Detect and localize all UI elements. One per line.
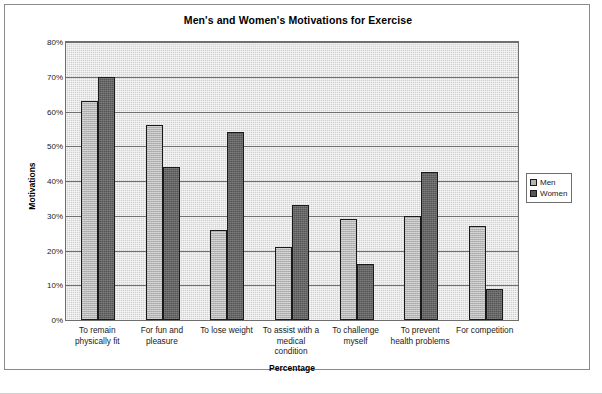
x-axis-category-label: To lose weight bbox=[190, 325, 262, 336]
x-axis-category-line: pleasure bbox=[126, 336, 198, 347]
x-axis-category-label: To assist with amedicalcondition bbox=[255, 325, 327, 357]
chart-legend: MenWomen bbox=[526, 173, 572, 203]
gridline bbox=[66, 146, 518, 147]
gridline bbox=[66, 77, 518, 78]
bar-women bbox=[98, 77, 115, 320]
x-axis-category-line: For fun and bbox=[126, 325, 198, 336]
gridline bbox=[66, 181, 518, 182]
x-axis-category-label: For competition bbox=[449, 325, 521, 336]
bar-men bbox=[81, 101, 98, 320]
bar-men bbox=[340, 219, 357, 320]
x-axis-category-line: To prevent bbox=[384, 325, 456, 336]
y-axis-tick-label: 70% bbox=[23, 72, 63, 81]
legend-item-women: Women bbox=[530, 188, 567, 199]
bar-men bbox=[404, 216, 421, 320]
x-axis-category-line: physically fit bbox=[61, 336, 133, 347]
bar-women bbox=[486, 289, 503, 320]
gridline bbox=[66, 42, 518, 43]
x-axis-category-line: For competition bbox=[449, 325, 521, 336]
y-axis-ticks: 80%70%60%50%40%30%20%10%0% bbox=[19, 41, 63, 321]
x-axis-category-label: To preventhealth problems bbox=[384, 325, 456, 346]
y-axis-label: Motivations bbox=[27, 131, 37, 241]
y-axis-tick-label: 10% bbox=[23, 281, 63, 290]
x-axis-category-line: To lose weight bbox=[190, 325, 262, 336]
x-axis-category-line: myself bbox=[320, 336, 392, 347]
plot-area bbox=[65, 41, 519, 321]
x-axis-category-label: For fun andpleasure bbox=[126, 325, 198, 346]
x-axis-category-line: To challenge bbox=[320, 325, 392, 336]
legend-item-label: Women bbox=[540, 188, 567, 199]
chart-frame: Men's and Women's Motivations for Exerci… bbox=[4, 4, 590, 370]
bar-men bbox=[146, 125, 163, 320]
legend-swatch-icon bbox=[530, 179, 537, 186]
bar-women bbox=[357, 264, 374, 320]
legend-item-men: Men bbox=[530, 177, 567, 188]
x-axis-category-label: To remainphysically fit bbox=[61, 325, 133, 346]
gridline bbox=[66, 112, 518, 113]
x-axis-category-line: condition bbox=[255, 346, 327, 357]
x-axis-label: Percentage bbox=[65, 363, 519, 373]
y-axis-tick-label: 0% bbox=[23, 316, 63, 325]
bar-women bbox=[292, 205, 309, 320]
y-axis-tick-label: 80% bbox=[23, 38, 63, 47]
legend-item-label: Men bbox=[540, 177, 556, 188]
bar-women bbox=[163, 167, 180, 320]
x-axis-category-line: To assist with a bbox=[255, 325, 327, 336]
bar-women bbox=[227, 132, 244, 320]
x-axis-category-line: health problems bbox=[384, 336, 456, 347]
x-axis-category-line: To remain bbox=[61, 325, 133, 336]
bar-men bbox=[210, 230, 227, 320]
bar-men bbox=[469, 226, 486, 320]
x-axis-category-label: To challengemyself bbox=[320, 325, 392, 346]
bar-men bbox=[275, 247, 292, 320]
bar-women bbox=[421, 172, 438, 320]
y-axis-tick-label: 60% bbox=[23, 107, 63, 116]
y-axis-tick-label: 20% bbox=[23, 246, 63, 255]
legend-swatch-icon bbox=[530, 190, 537, 197]
chart-title: Men's and Women's Motivations for Exerci… bbox=[5, 14, 591, 26]
x-axis-category-line: medical bbox=[255, 336, 327, 347]
